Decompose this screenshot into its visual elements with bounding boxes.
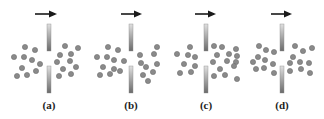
- particle: [104, 54, 109, 59]
- particle: [54, 59, 59, 64]
- panel-label: (a): [43, 99, 56, 112]
- particle: [214, 52, 219, 57]
- particle: [262, 57, 267, 62]
- particle: [297, 59, 302, 64]
- particle: [11, 54, 16, 59]
- particle: [256, 43, 261, 48]
- particle: [261, 65, 266, 70]
- particle: [143, 64, 148, 69]
- particle: [22, 44, 27, 49]
- particle: [188, 69, 193, 74]
- panel-a: (a): [11, 14, 80, 112]
- particle: [37, 61, 42, 66]
- barrier-top: [204, 24, 208, 51]
- particle: [32, 47, 37, 52]
- barrier-top: [129, 24, 133, 51]
- particle: [33, 68, 38, 73]
- particle: [174, 51, 179, 56]
- particle: [224, 58, 229, 63]
- particle: [211, 73, 216, 78]
- particle: [111, 66, 116, 71]
- particle: [140, 72, 145, 77]
- particle: [234, 53, 239, 58]
- particle: [68, 71, 73, 76]
- particle: [298, 66, 303, 71]
- particle: [19, 65, 24, 70]
- barrier-bottom: [129, 66, 133, 93]
- particle: [75, 45, 80, 50]
- barrier-bottom: [47, 66, 51, 93]
- particle: [97, 72, 102, 77]
- particle: [187, 44, 192, 49]
- particle: [105, 44, 110, 49]
- particle: [14, 73, 19, 78]
- particle: [226, 51, 231, 56]
- panel-c: (c): [174, 14, 239, 112]
- particle: [292, 43, 297, 48]
- barrier-top: [47, 24, 51, 51]
- particle: [177, 70, 182, 75]
- particle: [300, 48, 305, 53]
- particle: [192, 54, 197, 59]
- particle: [185, 52, 190, 57]
- particle: [57, 52, 62, 57]
- particle: [138, 60, 143, 65]
- particle: [309, 45, 314, 50]
- particle: [60, 66, 65, 71]
- panel-label: (c): [200, 99, 213, 112]
- particle: [68, 51, 73, 56]
- panel-label: (b): [124, 99, 138, 112]
- particle: [154, 44, 159, 49]
- particle: [290, 54, 295, 59]
- particle: [21, 54, 26, 59]
- particle: [234, 76, 239, 81]
- particle: [67, 58, 72, 63]
- panel-d: (d): [250, 14, 314, 112]
- barrier-bottom: [204, 66, 208, 93]
- particle: [111, 57, 116, 62]
- particle: [253, 66, 258, 71]
- particle: [29, 57, 34, 62]
- particle: [210, 59, 215, 64]
- particle: [270, 61, 275, 66]
- particle: [250, 59, 255, 64]
- particle: [154, 61, 159, 66]
- particle: [24, 72, 29, 77]
- particle: [231, 63, 236, 68]
- particle: [306, 60, 311, 65]
- slit-diagram-figure: (a)(b)(c)(d): [0, 0, 324, 119]
- particle: [217, 66, 222, 71]
- particle: [151, 51, 156, 56]
- particle: [255, 54, 260, 59]
- particle: [121, 58, 126, 63]
- particle: [263, 47, 268, 52]
- particle: [219, 44, 224, 49]
- particle: [56, 73, 61, 78]
- panel-b: (b): [94, 14, 159, 112]
- particle: [150, 69, 155, 74]
- barrier-bottom: [280, 66, 284, 93]
- particle: [115, 47, 120, 52]
- particle: [100, 64, 105, 69]
- particle: [222, 72, 227, 77]
- particle: [287, 68, 292, 73]
- particle: [117, 68, 122, 73]
- particle: [62, 43, 67, 48]
- particle: [145, 78, 150, 83]
- particle: [287, 60, 292, 65]
- particle: [107, 71, 112, 76]
- particle: [211, 43, 216, 48]
- particle: [233, 46, 238, 51]
- particle: [192, 63, 197, 68]
- barrier-top: [280, 24, 284, 51]
- particle: [181, 61, 186, 66]
- particle: [271, 70, 276, 75]
- particle: [73, 64, 78, 69]
- particle: [94, 54, 99, 59]
- particle: [271, 49, 276, 54]
- particle: [307, 70, 312, 75]
- particle: [137, 52, 142, 57]
- panel-label: (d): [275, 99, 289, 112]
